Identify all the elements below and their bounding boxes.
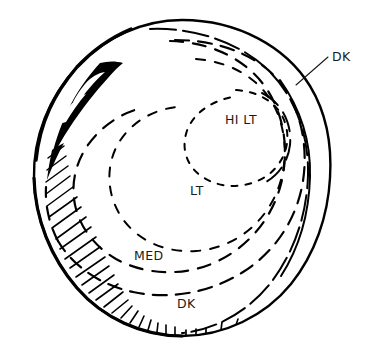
- label-zone-lt: LT: [190, 183, 204, 198]
- label-zone-med: MED: [134, 248, 164, 263]
- figure-container: DK HI LT LT MED DK: [0, 0, 373, 352]
- disk-diagram: DK HI LT LT MED DK: [0, 0, 373, 352]
- label-dk-callout: DK: [332, 49, 351, 64]
- label-zone-hi-lt: HI LT: [225, 112, 257, 127]
- label-zone-dk: DK: [177, 296, 196, 311]
